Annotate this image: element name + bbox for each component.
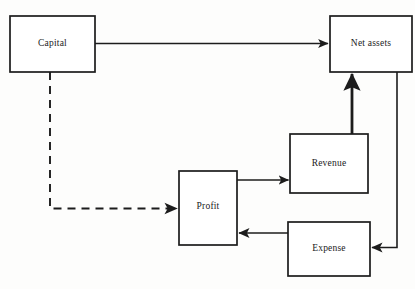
node-label: Profit	[197, 201, 220, 211]
node-revenue[interactable]: Revenue	[290, 134, 368, 193]
node-expense[interactable]: Expense	[288, 222, 370, 276]
node-net-assets[interactable]: Net assets	[330, 16, 412, 72]
node-label: Revenue	[312, 158, 347, 168]
node-label: Expense	[312, 243, 346, 253]
node-capital[interactable]: Capital	[10, 16, 95, 72]
edge-line	[372, 72, 397, 248]
diagram-svg: Capital Net assets Revenue Profit Expens…	[0, 0, 415, 289]
node-profit[interactable]: Profit	[179, 171, 237, 245]
edge-line-dashed	[50, 72, 177, 209]
node-label: Net assets	[351, 38, 391, 48]
diagram-canvas: Capital Net assets Revenue Profit Expens…	[0, 0, 415, 289]
edge-net-assets-to-expense	[372, 72, 397, 248]
node-label: Capital	[38, 38, 67, 48]
edge-capital-to-profit	[50, 72, 177, 209]
